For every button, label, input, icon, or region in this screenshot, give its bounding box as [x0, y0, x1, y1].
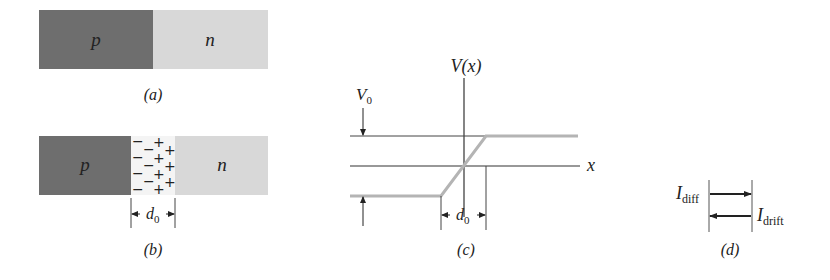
panel-d: Idiff Idrift (d) [675, 180, 784, 259]
caption-d: (d) [721, 241, 740, 259]
plus-charge: + [153, 134, 165, 150]
plus-charge: + [153, 166, 165, 182]
p-label: p [89, 29, 101, 50]
diffusion-current-label: Idiff [675, 183, 699, 206]
caption-a: (a) [144, 86, 163, 104]
p-label: p [78, 154, 90, 175]
minus-charge: − [132, 165, 144, 181]
drift-current-label: Idrift [756, 205, 784, 228]
plus-charge: + [153, 181, 165, 197]
plus-charge: + [153, 150, 165, 166]
d0-label: d0 [146, 205, 160, 225]
plus-charge: + [164, 158, 176, 174]
plus-charge: + [164, 174, 176, 190]
panel-a: p n (a) [39, 10, 268, 104]
minus-charge: − [132, 149, 144, 165]
panel-c: V(x) x V0 d0 (c) [350, 56, 595, 259]
caption-b: (b) [144, 241, 163, 259]
panel-b: p n − − − − − − − + + + + + + + d0 (b) [39, 133, 268, 259]
y-axis-label: V(x) [451, 56, 482, 77]
charges: − − − − − − − + + + + + + + [132, 133, 176, 197]
x-axis-label: x [586, 155, 595, 175]
minus-charge: − [132, 181, 144, 197]
d0-label: d0 [456, 206, 470, 226]
n-label: n [217, 154, 227, 175]
n-label: n [205, 29, 215, 50]
minus-charge: − [132, 133, 144, 149]
pn-junction-figure: p n (a) p n − − − − − − − + + + + + + + [0, 0, 830, 280]
caption-c: (c) [457, 241, 475, 259]
plus-charge: + [164, 142, 176, 158]
v0-label: V0 [356, 85, 372, 106]
